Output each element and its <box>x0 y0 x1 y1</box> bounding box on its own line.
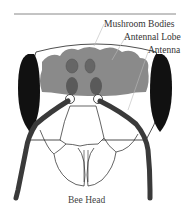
label-mushroom-bodies: Mushroom Bodies <box>104 20 174 30</box>
label-antenna: Antenna <box>148 46 180 56</box>
left-mandible <box>54 148 85 186</box>
right-mandible <box>87 148 116 186</box>
leader-line-mushroom-bodies <box>94 24 104 46</box>
bee-head-diagram: Mushroom Bodies Antennal Lobe Antenna Be… <box>0 0 193 222</box>
label-antennal-lobe: Antennal Lobe <box>124 33 181 43</box>
mushroom-body-right <box>85 59 95 73</box>
antennal-lobe-right <box>90 77 102 95</box>
mushroom-body-left <box>66 59 78 73</box>
diagram-caption: Bee Head <box>68 196 105 206</box>
antennal-lobe-left <box>66 77 78 95</box>
